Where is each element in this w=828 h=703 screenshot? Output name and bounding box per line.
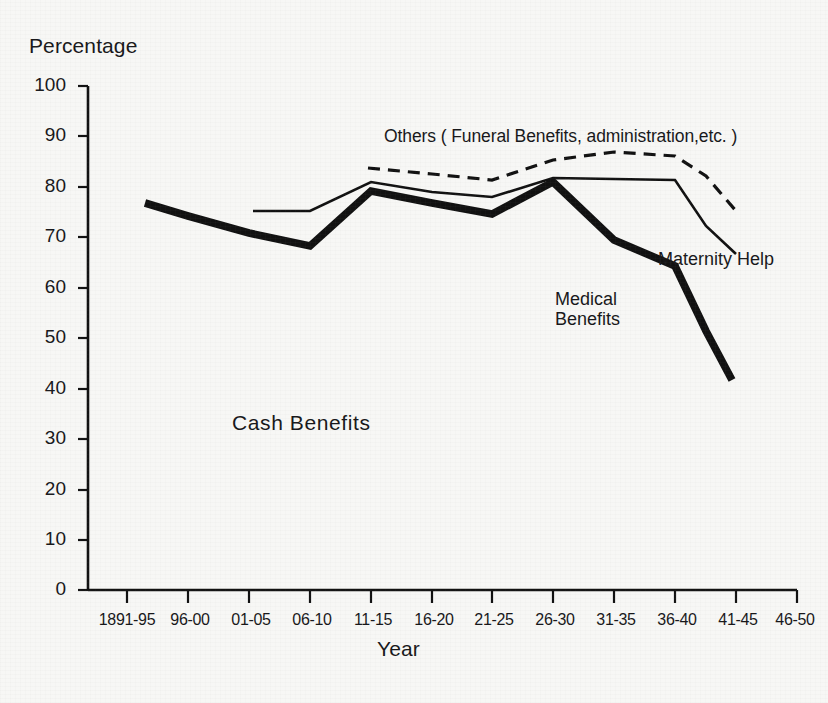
- x-tick-label-31-35: 31-35: [596, 611, 635, 629]
- x-axis-title: Year: [377, 637, 420, 661]
- x-tick-label-16-20: 16-20: [414, 611, 453, 629]
- y-tick-label-20: 20: [14, 478, 66, 500]
- x-tick-label-96-00: 96-00: [170, 611, 209, 629]
- y-tick-label-10: 10: [14, 528, 66, 550]
- chart-figure: Percentage: [0, 0, 828, 703]
- x-axis-ticks: [127, 590, 797, 603]
- y-tick-label-90: 90: [14, 124, 66, 146]
- y-tick-label-100: 100: [14, 74, 66, 96]
- x-tick-label-1891-95: 1891-95: [99, 611, 156, 629]
- y-tick-label-30: 30: [14, 427, 66, 449]
- chart-plot-area: [0, 0, 828, 703]
- x-tick-label-06-10: 06-10: [292, 611, 331, 629]
- series-line-cash-benefits: [145, 182, 732, 380]
- x-tick-label-46-50: 46-50: [775, 611, 814, 629]
- series-label-medical-benefits-line2: Benefits: [555, 309, 620, 329]
- y-axis-ticks: [78, 86, 88, 590]
- x-tick-label-11-15: 11-15: [354, 611, 392, 629]
- series-label-maternity-help: Maternity Help: [658, 249, 774, 269]
- y-tick-label-80: 80: [14, 175, 66, 197]
- x-tick-label-21-25: 21-25: [474, 611, 513, 629]
- x-tick-label-36-40: 36-40: [657, 611, 696, 629]
- x-tick-label-26-30: 26-30: [535, 611, 574, 629]
- x-tick-label-01-05: 01-05: [231, 611, 270, 629]
- x-tick-label-41-45: 41-45: [718, 611, 757, 629]
- series-label-medical-benefits: Medical Benefits: [555, 289, 620, 329]
- series-label-cash-benefits: Cash Benefits: [232, 411, 371, 435]
- series-label-others: Others ( Funeral Benefits, administratio…: [384, 127, 737, 147]
- y-tick-label-60: 60: [14, 276, 66, 298]
- y-tick-label-40: 40: [14, 377, 66, 399]
- y-tick-label-70: 70: [14, 225, 66, 247]
- y-tick-label-0: 0: [14, 578, 66, 600]
- y-tick-label-50: 50: [14, 326, 66, 348]
- series-label-medical-benefits-line1: Medical: [555, 289, 620, 309]
